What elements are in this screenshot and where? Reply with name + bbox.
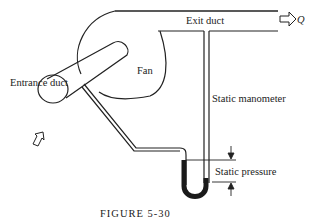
entrance-duct [47,42,128,98]
fan-label: Fan [137,65,154,76]
fan-housing-lower [99,31,166,99]
manometer-fluid [184,160,206,197]
connecting-tube [84,84,180,148]
figure-caption: FIGURE 5-30 [100,208,171,219]
fan-housing [77,11,278,74]
fan-static-pressure-diagram: Exit duct Q Fan Entrance duct Static man… [0,0,311,219]
pressure-arrow-top-icon [228,153,234,159]
static-manometer-label: Static manometer [212,93,286,104]
entrance-duct-label: Entrance duct [10,77,68,88]
pressure-arrow-bottom-icon [228,183,234,189]
inlet-flow-arrow-icon [33,132,44,146]
exit-flow-arrow-icon [280,12,296,26]
flow-q-label: Q [297,14,305,25]
exit-duct-label: Exit duct [186,15,224,26]
static-pressure-label: Static pressure [215,166,277,177]
